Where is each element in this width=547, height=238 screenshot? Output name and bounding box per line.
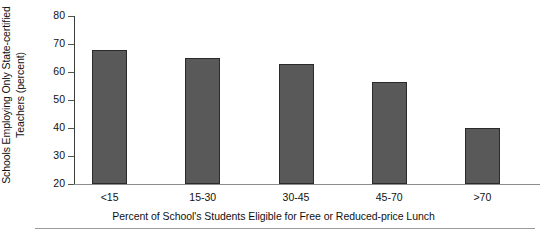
y-axis-tick: 70: [68, 44, 74, 45]
x-axis-tick-label: >70: [442, 191, 522, 204]
bar-chart-figure: Schools Employing Only State-certified T…: [0, 0, 547, 238]
y-axis-tick-label: 50: [53, 93, 65, 106]
y-axis-tick: 80: [68, 16, 74, 17]
bar: [372, 82, 407, 184]
y-axis-tick-label: 30: [53, 149, 65, 162]
x-axis-tick-label: 45-70: [349, 191, 429, 204]
y-axis-title-line-2: Teachers (percent): [14, 0, 28, 190]
bar: [92, 50, 127, 184]
bar: [185, 58, 220, 184]
x-axis-tick-label: 15-30: [163, 191, 243, 204]
bar: [465, 128, 500, 184]
plot-area: 20304050607080 <1515-3030-4545-70>70: [74, 16, 540, 185]
y-axis-tick-label: 80: [53, 9, 65, 22]
y-axis-tick: 40: [68, 128, 74, 129]
y-axis-tick: 30: [68, 156, 74, 157]
bar: [279, 64, 314, 184]
y-axis-tick-label: 70: [53, 37, 65, 50]
y-axis-tick-label: 40: [53, 121, 65, 134]
x-axis-tick-label: <15: [70, 191, 150, 204]
y-axis-title: Schools Employing Only State-certified T…: [0, 0, 44, 196]
y-axis-tick-label: 20: [53, 177, 65, 190]
x-axis-tick-label: 30-45: [256, 191, 336, 204]
y-axis-tick: 20: [68, 184, 74, 185]
x-axis-title: Percent of School's Students Eligible fo…: [0, 210, 547, 223]
footer-divider: [35, 228, 535, 229]
y-axis-title-line-1: Schools Employing Only State-certified: [0, 0, 14, 190]
y-axis-tick: 50: [68, 100, 74, 101]
y-axis-tick-label: 60: [53, 65, 65, 78]
y-axis-line: [74, 16, 75, 185]
y-axis-tick: 60: [68, 72, 74, 73]
x-axis-line: [74, 184, 540, 185]
